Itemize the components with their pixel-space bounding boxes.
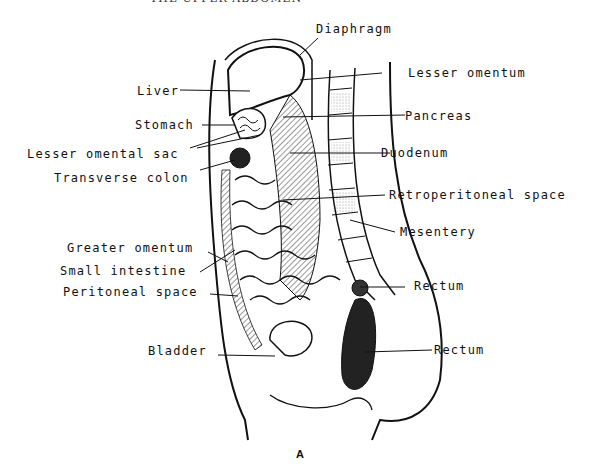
label-retroperitoneal-space: Retroperitoneal space — [389, 188, 566, 202]
stomach-region — [232, 108, 265, 138]
label-pancreas: Pancreas — [405, 109, 472, 123]
spine — [328, 68, 395, 300]
label-stomach: Stomach — [135, 118, 194, 132]
label-peritoneal-space: Peritoneal space — [63, 285, 198, 299]
label-small-intestine: Small intestine — [60, 264, 186, 278]
peritoneal-band — [221, 170, 262, 350]
label-duodenum: Duodenum — [381, 146, 448, 160]
label-rectum-lower: Rectum — [434, 343, 485, 357]
label-liver: Liver — [137, 84, 179, 98]
label-bladder: Bladder — [148, 344, 207, 358]
label-mesentery: Mesentery — [400, 225, 476, 239]
label-rectum-upper: Rectum — [414, 279, 465, 293]
label-transverse-colon: Transverse colon — [54, 171, 189, 185]
retroperitoneal-shape — [270, 95, 320, 300]
label-diaphragm: Diaphragm — [316, 22, 392, 36]
label-lesser-omental-sac: Lesser omental sac — [27, 147, 179, 161]
rectum-shape — [342, 298, 376, 389]
bladder-shape — [270, 321, 312, 356]
figure-caption: A — [296, 448, 304, 460]
label-greater-omentum: Greater omentum — [67, 241, 193, 255]
transverse-colon-shape — [230, 148, 250, 168]
label-lesser-omentum: Lesser omentum — [408, 66, 526, 80]
